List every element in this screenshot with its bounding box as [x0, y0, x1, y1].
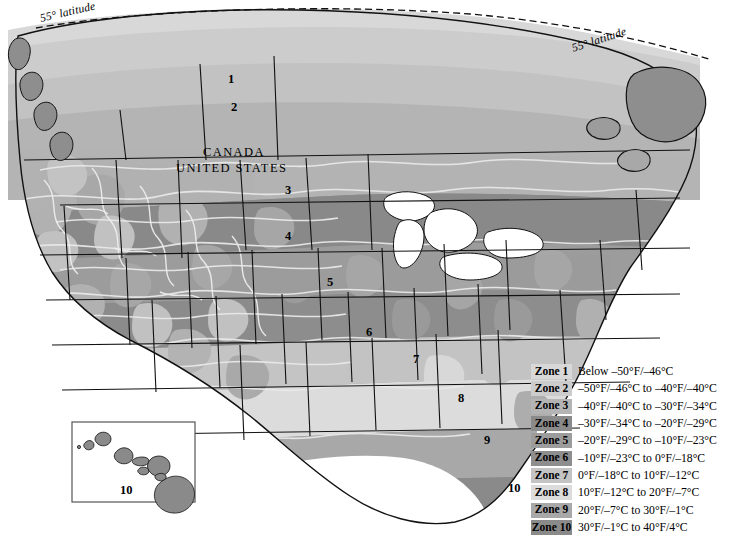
legend-temperature-range: –40°F/–40°C to –30°F/–34°C: [578, 400, 717, 413]
hawaii-inset: [72, 422, 195, 513]
legend-temperature-range: –10°F/–23°C to 0°F/–18°C: [578, 452, 705, 465]
legend-row: Zone 2–50°F/–46°C to –40°F/–40°C: [531, 380, 729, 397]
legend-temperature-range: –50°F/–46°C to –40°F/–40°C: [578, 382, 717, 395]
legend-row: Zone 810°F/–12°C to 20°F/–7°C: [531, 484, 729, 501]
legend-row: Zone 920°F/–7°C to 30°F/–1°C: [531, 501, 729, 518]
legend-swatch: Zone 10: [531, 520, 572, 535]
legend: Zone 1Below –50°F/–46°CZone 2–50°F/–46°C…: [531, 363, 729, 536]
legend-zone-name: Zone 6: [535, 452, 569, 464]
legend-swatch: Zone 4: [531, 416, 572, 431]
legend-temperature-range: Below –50°F/–46°C: [578, 365, 673, 378]
legend-zone-name: Zone 8: [535, 487, 569, 499]
legend-swatch: Zone 7: [531, 468, 572, 483]
legend-swatch: Zone 9: [531, 503, 572, 518]
pacific-ocean: [0, 300, 84, 542]
legend-temperature-range: 0°F/–18°C to 10°F/–12°C: [578, 469, 699, 482]
legend-temperature-range: 10°F/–12°C to 20°F/–7°C: [578, 486, 699, 499]
legend-temperature-range: –20°F/–29°C to –10°F/–23°C: [578, 434, 717, 447]
legend-swatch: Zone 8: [531, 485, 572, 500]
legend-row: Zone 6–10°F/–23°C to 0°F/–18°C: [531, 449, 729, 466]
legend-swatch: Zone 2: [531, 381, 572, 396]
legend-zone-name: Zone 4: [535, 418, 569, 430]
legend-zone-name: Zone 1: [535, 366, 569, 378]
legend-temperature-range: –30°F/–34°C to –20°F/–29°C: [578, 417, 717, 430]
legend-row: Zone 1Below –50°F/–46°C: [531, 363, 729, 380]
legend-temperature-range: 30°F/–1°C to 40°F/4°C: [578, 521, 688, 534]
legend-temperature-range: 20°F/–7°C to 30°F/–1°C: [578, 504, 693, 517]
legend-row: Zone 1030°F/–1°C to 40°F/4°C: [531, 519, 729, 536]
legend-zone-name: Zone 5: [535, 435, 569, 447]
legend-swatch: Zone 1: [531, 364, 572, 379]
legend-zone-name: Zone 10: [532, 522, 571, 534]
hardiness-zone-map-figure: 55° latitude 55° latitude CANADA UNITED …: [0, 0, 731, 542]
legend-zone-name: Zone 9: [535, 504, 569, 516]
legend-zone-name: Zone 7: [535, 470, 569, 482]
legend-swatch: Zone 5: [531, 433, 572, 448]
legend-swatch: Zone 3: [531, 399, 572, 414]
legend-row: Zone 3–40°F/–40°C to –30°F/–34°C: [531, 398, 729, 415]
newfoundland: [626, 67, 705, 142]
legend-row: Zone 4–30°F/–34°C to –20°F/–29°C: [531, 415, 729, 432]
legend-row: Zone 70°F/–18°C to 10°F/–12°C: [531, 467, 729, 484]
legend-swatch: Zone 6: [531, 451, 572, 466]
legend-row: Zone 5–20°F/–29°C to –10°F/–23°C: [531, 432, 729, 449]
legend-zone-name: Zone 2: [535, 383, 569, 395]
legend-zone-name: Zone 3: [535, 400, 569, 412]
